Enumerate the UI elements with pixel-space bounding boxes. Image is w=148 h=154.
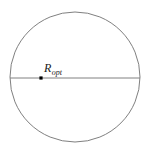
- circle-diagram-figure: Ropt: [0, 0, 148, 154]
- outer-circle: [10, 12, 140, 142]
- optimal-radius-label-subscript: opt: [52, 68, 63, 77]
- optimal-radius-point-marker: [39, 76, 42, 79]
- optimal-radius-label: Ropt: [43, 61, 63, 77]
- diagram-canvas: Ropt: [0, 0, 148, 154]
- optimal-radius-label-base: R: [43, 61, 52, 75]
